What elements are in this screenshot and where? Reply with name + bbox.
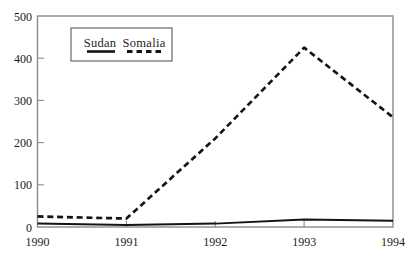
x-axis-tick-label: 1991	[114, 235, 138, 249]
legend-label-sudan: Sudan	[84, 36, 117, 50]
y-axis-tick-label: 200	[14, 136, 32, 150]
legend: Sudan Somalia	[71, 28, 172, 61]
y-axis-tick-label: 400	[14, 52, 32, 66]
y-axis-tick-label: 300	[14, 94, 32, 108]
chart-canvas: 010020030040050019901991199219931994 Sud…	[0, 0, 406, 265]
y-axis-tick-label: 100	[14, 178, 32, 192]
x-axis-tick-label: 1992	[203, 235, 227, 249]
somalia-series-line	[38, 48, 394, 219]
y-axis-tick-label: 500	[14, 10, 32, 24]
y-axis-tick-label: 0	[26, 221, 32, 235]
x-axis-tick-label: 1990	[26, 235, 50, 249]
x-axis-tick-label: 1994	[381, 235, 405, 249]
x-axis-tick-label: 1993	[292, 235, 316, 249]
legend-label-somalia: Somalia	[122, 36, 165, 50]
line-chart-figure: 010020030040050019901991199219931994 Sud…	[0, 0, 406, 265]
